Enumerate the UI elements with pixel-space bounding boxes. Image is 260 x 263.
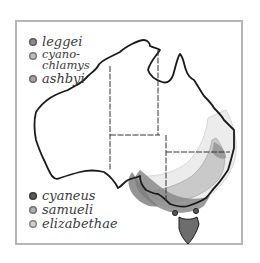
legend-label: samueli [42, 203, 93, 216]
distribution-ranges [129, 110, 237, 244]
range-dot-icon [29, 192, 37, 200]
legend-bottom: cyaneus samueli elizabethae [29, 189, 118, 231]
legend-label: cyano- chlamys [42, 49, 90, 71]
legend-label: ashbyi [42, 72, 85, 85]
legend-top: leggei cyano- chlamys ashbyi [29, 35, 90, 86]
range-dot-icon [29, 52, 37, 60]
range-dot-icon [29, 220, 37, 228]
range-dot-icon [29, 206, 37, 214]
legend-item-elizabethae: elizabethae [29, 217, 118, 230]
range-dot-icon [29, 75, 37, 83]
legend-item-ashbyi: ashbyi [29, 72, 90, 85]
range-dot-icon [29, 38, 37, 46]
legend-label: elizabethae [42, 217, 118, 230]
legend-item-samueli: samueli [29, 203, 118, 216]
legend-label: cyaneus [42, 189, 96, 202]
legend-item-cyanochlamys: cyano- chlamys [29, 49, 90, 71]
legend-item-cyaneus: cyaneus [29, 189, 118, 202]
